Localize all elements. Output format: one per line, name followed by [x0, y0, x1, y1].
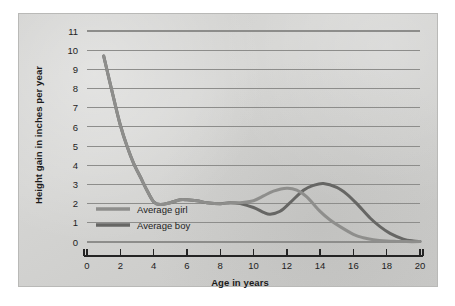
y-tick-label: 3 [73, 179, 78, 190]
x-tick-label: 14 [315, 260, 326, 271]
legend-label: Average boy [137, 220, 190, 231]
x-tick-label: 18 [381, 260, 392, 271]
y-tick-label: 2 [73, 198, 78, 209]
chart-legend: Average girlAverage boy [96, 204, 190, 231]
growth-velocity-chart-figure: Height gain in inches per year Age in ye… [0, 0, 455, 306]
y-tick-label: 4 [73, 160, 78, 171]
x-tick-label: 12 [282, 260, 293, 271]
y-tick-label: 0 [73, 237, 78, 248]
y-tick-label: 9 [73, 64, 78, 75]
x-tick-label: 8 [218, 260, 223, 271]
y-tick-label: 8 [73, 83, 78, 94]
legend-label: Average girl [137, 204, 188, 215]
x-tick-label: 10 [248, 260, 259, 271]
x-tick-label: 2 [118, 260, 123, 271]
y-tick-label: 1 [73, 217, 78, 228]
x-tick-label: 6 [184, 260, 189, 271]
x-tick-labels-group: 02468101214161820 [84, 260, 425, 271]
y-tick-labels-group: 01234567891011 [67, 26, 78, 248]
chart-plot-area: 01234567891011 Average girlAverage boy 0… [18, 13, 438, 287]
y-tick-label: 10 [67, 45, 78, 56]
y-tick-label: 7 [73, 102, 78, 113]
x-tick-label: 20 [415, 260, 426, 271]
x-tick-label: 4 [151, 260, 156, 271]
y-tick-label: 11 [68, 26, 78, 37]
y-tick-label: 5 [73, 141, 78, 152]
y-tick-label: 6 [73, 122, 78, 133]
x-tick-label: 0 [84, 260, 89, 271]
x-axis-group [84, 249, 423, 256]
x-tick-label: 16 [348, 260, 359, 271]
